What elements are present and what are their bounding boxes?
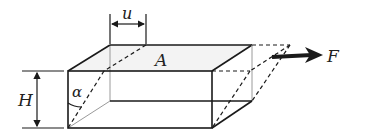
force-arrow [272, 47, 323, 63]
shear-diagram: u A F H α [0, 0, 369, 140]
diagram-canvas: u A F H α [0, 0, 369, 140]
area-label: A [153, 50, 167, 70]
angle-label: α [72, 83, 82, 101]
force-label: F [326, 46, 340, 66]
height-label: H [17, 90, 34, 110]
displacement-label: u [122, 4, 132, 23]
angle-arc [68, 103, 82, 107]
